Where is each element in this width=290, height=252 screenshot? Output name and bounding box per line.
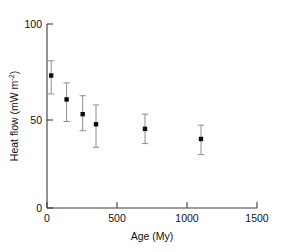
x-ticklabel-1500: 1500 [245,212,269,224]
x-ticklabel-1000: 1000 [175,212,199,224]
axes-group [47,24,257,208]
data-point-marker [143,127,147,131]
chart-svg: 0 500 1000 1500 0 50 100 Age (My) Heat f… [0,0,290,252]
data-point [198,125,204,154]
y-ticklabel-0: 0 [36,202,42,214]
y-axis-title: Heat flow (mW m-2) [7,71,20,161]
x-axis-title: Age (My) [131,230,174,242]
y-axis-title-main: Heat flow (mW m [8,80,20,161]
data-point [93,105,99,147]
x-ticklabel-500: 500 [108,212,126,224]
data-point [48,61,54,94]
y-axis-title-close: ) [8,71,20,75]
data-point [63,83,69,122]
y-tick-marks [47,24,53,208]
x-ticklabel-0: 0 [44,212,50,224]
data-point-marker [199,137,203,141]
data-point-marker [94,122,98,126]
data-point-marker [81,112,85,116]
x-tick-marks [47,202,257,208]
data-series-heat-flow [48,61,204,155]
data-point-marker [64,97,68,101]
heat-flow-vs-age-chart: 0 500 1000 1500 0 50 100 Age (My) Heat f… [0,0,290,252]
data-point-marker [49,73,53,77]
data-point [142,114,148,143]
data-point [80,96,86,131]
y-ticklabel-100: 100 [24,18,42,30]
svg-text:Heat flow (mW m-2): Heat flow (mW m-2) [7,71,20,161]
y-ticklabel-50: 50 [30,114,42,126]
